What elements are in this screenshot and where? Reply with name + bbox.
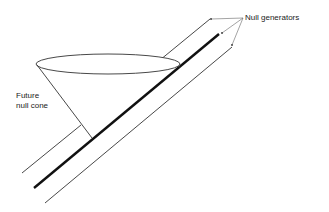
null-generators-label: Null generators	[245, 13, 299, 23]
pointer-dot-lower	[231, 44, 233, 46]
cone-rim-ellipse	[36, 54, 180, 74]
future-null-cone-label-line2: null cone	[16, 101, 48, 111]
future-null-cone-label: Future null cone	[16, 91, 48, 111]
null-generator-upper-upper-segment	[160, 19, 210, 60]
pointer-dot-upper	[210, 18, 212, 20]
null-cone-diagram	[0, 0, 329, 212]
future-null-cone-label-line1: Future	[16, 91, 48, 101]
null-generator-upper-lower-segment	[22, 125, 81, 173]
pointer-line-upper	[211, 18, 243, 19]
pointer-dot-middle	[221, 32, 223, 34]
